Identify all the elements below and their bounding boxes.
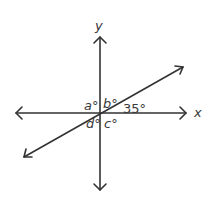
angle-b-label: b° bbox=[103, 97, 118, 110]
diagram-canvas: y x a° b° 35° d° c° bbox=[0, 0, 215, 198]
angle-a-label: a° bbox=[84, 99, 98, 112]
angle-35-label: 35° bbox=[123, 102, 146, 115]
angle-c-label: c° bbox=[104, 117, 118, 130]
angle-d-label: d° bbox=[86, 117, 101, 130]
y-axis-label: y bbox=[95, 19, 103, 32]
x-axis-label: x bbox=[194, 106, 202, 119]
transversal-line bbox=[24, 67, 183, 157]
